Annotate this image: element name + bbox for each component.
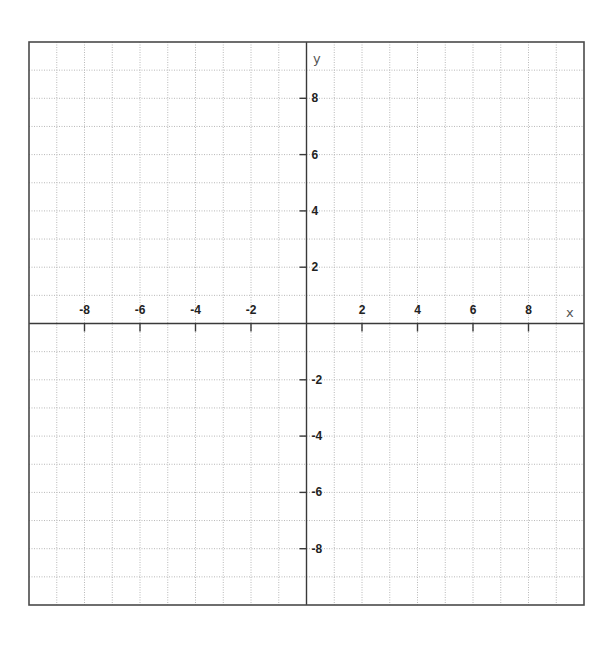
x-tick-label: 2 [359, 303, 366, 317]
y-tick-label: 6 [312, 148, 319, 162]
x-tick-label: -4 [190, 303, 201, 317]
y-tick-label: 2 [312, 260, 319, 274]
x-tick-label: 6 [470, 303, 477, 317]
y-tick-label: -4 [312, 429, 323, 443]
y-axis-label: y [313, 51, 321, 66]
x-tick-label: 8 [525, 303, 532, 317]
y-tick-label: -8 [312, 542, 323, 556]
x-tick-label: -6 [135, 303, 146, 317]
x-tick-label: -2 [246, 303, 257, 317]
x-tick-label: 4 [414, 303, 421, 317]
y-tick-label: -6 [312, 485, 323, 499]
x-axis-label: x [566, 305, 574, 320]
y-tick-label: 8 [312, 91, 319, 105]
x-tick-label: -8 [79, 303, 90, 317]
y-tick-label: 4 [312, 204, 319, 218]
coordinate-plane: -8-6-4-224688642-2-4-6-8 x y [0, 0, 609, 646]
y-tick-label: -2 [312, 373, 323, 387]
